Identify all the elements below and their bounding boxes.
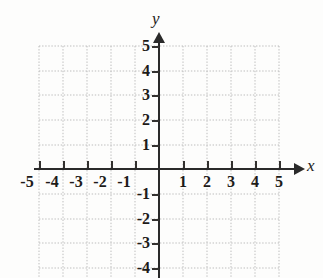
x-tick-1 [183,161,185,168]
y-label-1: 1 [120,137,150,153]
x-axis-label: x [307,157,315,174]
x-label-4: 4 [242,174,268,190]
x-tick--3 [87,161,89,168]
y-tick-3 [152,95,159,97]
y-tick-1 [152,145,159,147]
x-axis-arrow-icon [294,163,305,175]
y-tick-5 [152,46,159,48]
x-tick--5 [39,161,41,168]
y-label--3: -3 [120,235,150,251]
x-tick-3 [231,161,233,168]
y-label--2: -2 [120,211,150,227]
y-tick-2 [152,120,159,122]
x-label-5: 5 [266,174,292,190]
x-label-2: 2 [194,174,220,190]
y-tick--1 [152,194,159,196]
y-label--4: -4 [120,260,150,276]
x-tick-5 [279,161,281,168]
x-tick--4 [63,161,65,168]
x-tick--2 [111,161,113,168]
x-label-3: 3 [218,174,244,190]
y-tick--4 [152,268,159,270]
x-tick-2 [207,161,209,168]
y-label--1: -1 [120,186,150,202]
y-label-5: 5 [120,38,150,54]
y-label-2: 2 [120,112,150,128]
y-axis-label: y [152,10,160,27]
coordinate-plane-figure: -5 -4 -3 -2 -1 1 2 3 4 5 5 4 3 2 1 -1 -2… [0,0,323,278]
x-label--5: -5 [14,174,40,190]
y-label-3: 3 [120,87,150,103]
x-label-1: 1 [170,174,196,190]
y-tick--3 [152,243,159,245]
y-axis-arrow-icon [153,32,165,43]
y-tick--2 [152,219,159,221]
x-label--4: -4 [39,174,65,190]
y-label-4: 4 [120,63,150,79]
x-label--2: -2 [87,174,113,190]
x-label--3: -3 [63,174,89,190]
x-axis-line [34,168,300,170]
y-tick-4 [152,71,159,73]
x-tick--1 [135,161,137,168]
x-tick-4 [255,161,257,168]
